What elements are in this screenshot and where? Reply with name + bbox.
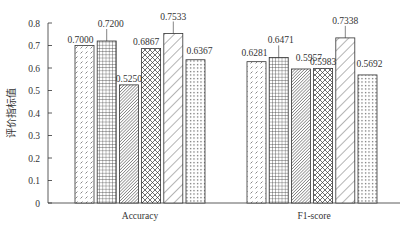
bar-value-label: 0.6867 [133,37,159,47]
bar-value-label: 0.6471 [268,35,294,45]
bar [164,34,183,203]
bar [336,38,355,203]
bar [75,46,94,204]
bar-value-label: 0.6367 [186,46,212,56]
bar-value-label: 0.6281 [241,48,267,58]
bar [186,60,205,203]
bar-value-label: 0.5250 [116,74,142,84]
bar [269,57,288,203]
y-tick-label: 0.5 [28,86,40,96]
y-axis-label: 评价指标值 [5,88,17,138]
bar [119,85,138,203]
chart-canvas: 00.10.20.30.40.50.60.70.8AccuracyF1-scor… [0,0,414,226]
y-tick-label: 0.3 [28,131,40,141]
bar-chart: 00.10.20.30.40.50.60.70.8AccuracyF1-scor… [0,0,414,226]
bar [97,41,116,203]
bar [247,62,266,203]
y-tick-label: 0.4 [28,109,40,119]
y-tick-label: 0.2 [28,154,40,164]
y-tick-label: 0.8 [28,19,40,29]
bar [314,68,333,203]
bar [291,69,310,203]
x-category-label: F1-score [297,211,330,221]
y-tick-label: 0 [35,199,40,209]
bar [142,48,161,203]
bar-value-label: 0.7338 [332,16,358,26]
bar-value-label: 0.7200 [98,19,124,29]
bar-value-label: 0.5692 [356,59,382,69]
bar-value-label: 0.7533 [160,12,186,22]
bar-value-label: 0.5983 [310,57,336,67]
y-tick-label: 0.7 [28,41,40,51]
x-category-label: Accuracy [122,211,159,221]
bar [358,75,377,203]
y-tick-label: 0.1 [28,176,40,186]
y-tick-label: 0.6 [28,64,40,74]
bar-value-label: 0.7000 [67,35,93,45]
